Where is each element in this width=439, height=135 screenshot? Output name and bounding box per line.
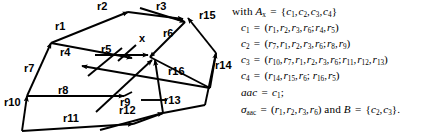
equals-sign: = xyxy=(354,103,363,115)
edge-r16 xyxy=(82,66,210,88)
semicolon-terminator: ; xyxy=(281,86,284,98)
brace-close: } xyxy=(332,5,337,17)
edge-label-r3: r3 xyxy=(156,1,166,12)
c2-lhs-sub: 2 xyxy=(246,43,250,51)
equals-sign: = xyxy=(259,103,268,115)
edge-label-r1: r1 xyxy=(55,21,65,32)
graph-edges-svg xyxy=(0,0,232,135)
equals-sign: = xyxy=(269,5,278,17)
annotation-line-c4: c4 = (r14, r15, r6; r16, r5) xyxy=(241,70,340,81)
equals-sign: = xyxy=(252,21,261,33)
edge-label-r11: r11 xyxy=(63,113,79,124)
directed-graph: r1 r2 r3 r4 r5 r6 r7 r8 r9 r10 r11 r12 r… xyxy=(0,0,232,135)
c1-lhs-sub: 1 xyxy=(246,27,250,35)
edge-label-r6: r6 xyxy=(163,28,173,39)
b-symbol: B xyxy=(344,103,351,115)
c4-lhs-sub: 4 xyxy=(246,75,250,83)
period-terminator: . xyxy=(397,103,400,115)
edge-connector-r11-r12 xyxy=(133,113,163,124)
annotation-line-c3: c3 = (r10, r7, r1, r2, r3, r6; r11, r12,… xyxy=(241,54,388,65)
annotation-line-with-ax: with Ax = {c1, c2, c3, c4} xyxy=(232,6,337,17)
paren-close: ) xyxy=(318,103,322,115)
annotation-line-c2: c2 = (r7, r1, r2, r3, r6; r8, r9) xyxy=(241,38,350,49)
edge-tick-r5-slash xyxy=(118,45,136,61)
edge-label-r14: r14 xyxy=(215,60,232,71)
edge-label-r16: r16 xyxy=(168,66,185,77)
c3-lhs-sub: 3 xyxy=(246,59,250,67)
edge-connector-r12-r14 xyxy=(163,105,205,113)
edge-label-r4: r4 xyxy=(60,47,70,58)
edge-r15 xyxy=(188,18,216,53)
c3-post-r11-sub: 11 xyxy=(347,59,354,67)
edge-label-r5: r5 xyxy=(101,44,111,55)
edge-label-r2: r2 xyxy=(97,1,107,12)
edge-r13 xyxy=(155,60,163,113)
equals-sign: = xyxy=(252,37,261,49)
sigma-subscript: aac xyxy=(247,109,257,117)
paren-close: ) xyxy=(384,53,388,65)
paren-close: ) xyxy=(336,69,340,81)
annotation-line-c1: c1 = (r1, r2, r3, r6; r4, r5) xyxy=(241,22,339,33)
c3-pre-r10-sub: 10 xyxy=(273,59,280,67)
with-keyword: with xyxy=(232,5,253,17)
set-symbol-a-subscript: x xyxy=(262,11,266,19)
node-label-x: x xyxy=(139,33,145,44)
aac-symbol: aac xyxy=(241,86,257,98)
and-keyword: and xyxy=(324,103,341,115)
equals-sign: = xyxy=(252,69,261,81)
paren-close: ) xyxy=(335,21,339,33)
edge-label-r12: r12 xyxy=(119,105,136,116)
annotation-line-aac: aac = c1; xyxy=(241,87,284,98)
equals-sign: = xyxy=(260,86,269,98)
c3-post-r13-sub: 13 xyxy=(377,59,384,67)
c3-post-r12-sub: 12 xyxy=(362,59,369,67)
annotation-line-sigma: σaac = (r1, r2, r3, r6) and B = {c2, c3}… xyxy=(241,104,400,115)
c4-pre-r14-sub: 14 xyxy=(273,75,280,83)
edge-label-r10: r10 xyxy=(4,97,21,108)
figure-container: r1 r2 r3 r4 r5 r6 r7 r8 r9 r10 r11 r12 r… xyxy=(0,0,439,135)
annotation-block: with Ax = {c1, c2, c3, c4} c1 = (r1, r2,… xyxy=(232,3,439,135)
edge-label-r8: r8 xyxy=(58,85,68,96)
edge-label-r15: r15 xyxy=(199,10,216,21)
edge-label-r13: r13 xyxy=(164,95,181,106)
equals-sign: = xyxy=(252,53,261,65)
edge-r10 xyxy=(22,96,27,131)
edge-label-r7: r7 xyxy=(24,63,34,74)
paren-close: ) xyxy=(347,37,351,49)
c4-pre-r15-sub: 15 xyxy=(288,75,295,83)
